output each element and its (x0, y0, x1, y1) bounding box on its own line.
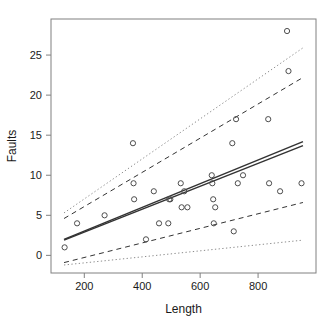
fit-line-a (64, 142, 303, 240)
data-point (102, 213, 107, 218)
data-point (231, 229, 236, 234)
x-tick-label: 200 (75, 280, 93, 292)
pi-upper-dotted (64, 48, 303, 213)
data-point (266, 181, 271, 186)
x-tick-label: 400 (133, 280, 151, 292)
y-tick-label: 0 (36, 249, 42, 261)
data-point (131, 181, 136, 186)
data-point (284, 28, 289, 33)
data-point (179, 205, 184, 210)
fit-line-b (64, 146, 303, 241)
data-point (74, 221, 79, 226)
data-point (143, 237, 148, 242)
x-tick-label: 600 (191, 280, 209, 292)
data-point (130, 141, 135, 146)
data-point (235, 181, 240, 186)
y-tick-label: 20 (30, 89, 42, 101)
ci-lower-dashed (64, 202, 303, 262)
y-tick-label: 5 (36, 209, 42, 221)
x-tick-label: 800 (249, 280, 267, 292)
y-tick-label: 10 (30, 169, 42, 181)
ci-upper-dashed (64, 77, 303, 218)
data-point (213, 205, 218, 210)
data-point (178, 181, 183, 186)
data-point (151, 189, 156, 194)
y-axis-title: Faults (5, 130, 19, 163)
data-point (209, 173, 214, 178)
data-point (277, 189, 282, 194)
data-point (166, 221, 171, 226)
y-tick-label: 15 (30, 129, 42, 141)
data-point (185, 205, 190, 210)
data-point (211, 197, 216, 202)
x-axis-title: Length (165, 302, 202, 316)
data-point (299, 181, 304, 186)
y-tick-label: 25 (30, 49, 42, 61)
data-point (156, 221, 161, 226)
data-point (230, 141, 235, 146)
data-point (240, 173, 245, 178)
plot-frame (51, 19, 316, 273)
pi-lower-dotted (64, 240, 303, 265)
data-point (62, 245, 67, 250)
data-point (132, 197, 137, 202)
scatter-plot: 2004006008000510152025LengthFaults (0, 0, 333, 323)
chart-container: 2004006008000510152025LengthFaults (0, 0, 333, 323)
data-point (286, 68, 291, 73)
data-point (266, 117, 271, 122)
